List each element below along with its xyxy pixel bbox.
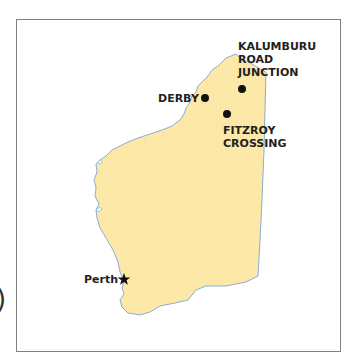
kalumburu-road-junction-marker[interactable] bbox=[238, 85, 246, 93]
fitzroy-crossing-marker[interactable] bbox=[223, 110, 231, 118]
kalumburu-road-junction-label: KALUMBURU ROAD JUNCTION bbox=[238, 40, 316, 79]
fitzroy-crossing-label: FITZROY CROSSING bbox=[223, 124, 287, 150]
perth-label: Perth bbox=[84, 273, 118, 286]
derby-label: DERBY bbox=[158, 92, 199, 105]
exmouth-gulf bbox=[98, 160, 102, 164]
derby-marker[interactable] bbox=[201, 94, 209, 102]
